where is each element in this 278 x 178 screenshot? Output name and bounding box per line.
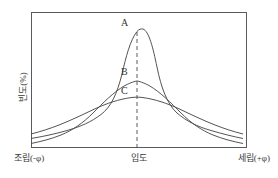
y-axis-label: 빈도(%) — [16, 19, 30, 155]
curve-label-a: A — [121, 17, 128, 28]
x-axis-label-center: 입도 — [0, 152, 278, 164]
grain-size-distribution-figure: A B C 빈도(%) 조립(-φ) 입도 세립(+φ) — [0, 0, 278, 178]
curve-label-c: C — [121, 85, 128, 96]
curve-label-b: B — [121, 66, 128, 77]
x-axis-label-fine: 세립(+φ) — [238, 152, 270, 164]
distribution-curves — [31, 12, 247, 148]
